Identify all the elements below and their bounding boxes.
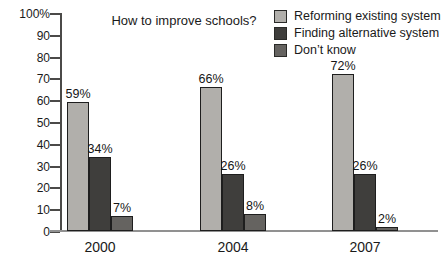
y-axis-tick (50, 122, 60, 124)
bar-value-label: 59% (56, 87, 100, 101)
y-axis-tick (50, 57, 60, 59)
y-axis-tick (50, 187, 60, 189)
y-tick-label: 70 (4, 71, 50, 87)
bar-value-label: 26% (343, 159, 387, 173)
bar-value-label: 2% (365, 212, 409, 226)
bar-2007-series-0 (332, 74, 354, 231)
bar-2000-series-2 (111, 216, 133, 231)
y-axis-tick (50, 144, 60, 146)
bar-2000-series-1 (89, 157, 111, 231)
y-tick-label: 10 (4, 202, 50, 218)
y-axis-tick (50, 166, 60, 168)
bar-value-label: 72% (321, 59, 365, 73)
y-tick-label: 50 (4, 115, 50, 131)
bar-value-label: 34% (78, 142, 122, 156)
legend-item-2: Don’t know (274, 44, 441, 57)
y-tick-label: 100% (4, 6, 50, 22)
bar-chart: How to improve schools? Reforming existi… (0, 0, 448, 263)
legend-swatch-icon (274, 44, 287, 57)
legend-item-0: Reforming existing system (274, 10, 441, 23)
legend-item-1: Finding alternative system (274, 27, 441, 40)
bar-2004-series-2 (244, 214, 266, 231)
y-tick-label: 20 (4, 180, 50, 196)
bar-2007-series-2 (376, 227, 398, 231)
y-axis-tick (50, 13, 60, 15)
bar-value-label: 8% (233, 199, 277, 213)
legend-label: Reforming existing system (294, 10, 441, 23)
y-axis-tick (50, 35, 60, 37)
y-tick-label: 60 (4, 93, 50, 109)
legend: Reforming existing systemFinding alterna… (274, 10, 441, 61)
y-tick-label: 80 (4, 50, 50, 66)
y-tick-label: 90 (4, 28, 50, 44)
legend-swatch-icon (274, 10, 287, 23)
y-tick-label: 0 (4, 224, 50, 240)
x-category-label: 2000 (60, 239, 140, 255)
y-tick-label: 40 (4, 137, 50, 153)
legend-swatch-icon (274, 27, 287, 40)
y-axis-tick (50, 78, 60, 80)
bar-value-label: 7% (100, 201, 144, 215)
legend-label: Finding alternative system (294, 27, 439, 40)
y-tick-label: 30 (4, 159, 50, 175)
y-axis-line (60, 13, 62, 232)
bar-2000-series-0 (67, 102, 89, 231)
bar-value-label: 26% (211, 159, 255, 173)
bar-value-label: 66% (189, 72, 233, 86)
x-category-label: 2004 (193, 239, 273, 255)
x-category-label: 2007 (325, 239, 405, 255)
y-axis-tick (50, 209, 60, 211)
legend-label: Don’t know (294, 44, 356, 57)
chart-title: How to improve schools? (64, 13, 304, 28)
